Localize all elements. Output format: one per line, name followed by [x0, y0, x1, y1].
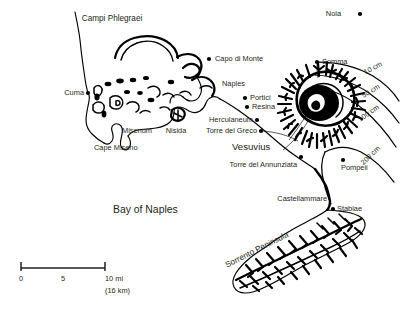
cone-blob-1 — [105, 82, 112, 86]
place-dot-cuma — [86, 91, 90, 95]
place-label-somma: Somma — [322, 57, 348, 66]
crater-ring-small-5 — [127, 102, 139, 112]
cone-blob-5 — [124, 90, 130, 94]
place-dot-somma — [315, 60, 319, 64]
island-nisida-ridge — [174, 110, 182, 120]
scale-bar-line — [21, 262, 105, 271]
isopach-labels-layer: 10 cm50 cm100 cm200 cm — [356, 59, 383, 166]
cone-blob-6 — [137, 91, 143, 95]
place-dot-torre-del-greco — [259, 129, 263, 133]
crater-ring-small-10 — [160, 107, 170, 110]
place-dot-herculaneum — [255, 118, 259, 122]
map-canvas: NolaSommaCapo di MonteNaplesCumaPorticiR… — [0, 0, 401, 311]
place-label-stabiae: Stabiae — [337, 204, 362, 213]
place-dot-resina — [245, 105, 249, 109]
isopach-label-100-cm: 100 cm — [356, 103, 380, 124]
region-label-campi-phlegraei: Campi Phlegraei — [82, 14, 143, 23]
place-dot-nola — [358, 12, 362, 16]
place-label-nola: Nola — [326, 9, 342, 18]
place-label-misenum: Misenum — [122, 126, 152, 135]
cone-blob-3 — [130, 78, 136, 82]
crater-ring-small-8 — [180, 91, 191, 95]
leader-torre-del-greco — [263, 131, 298, 141]
place-label-herculaneum: Herculaneum — [209, 115, 253, 124]
cone-blob-9 — [102, 110, 107, 117]
label-vesuvius: Vesuvius — [232, 141, 271, 152]
cone-blob-10 — [168, 80, 174, 84]
cone-blob-4 — [143, 76, 149, 80]
place-dot-portici — [243, 96, 247, 100]
label-bay-of-naples: Bay of Naples — [113, 204, 178, 215]
place-label-capo-di-monte: Capo di Monte — [215, 54, 263, 63]
coastline-northwest — [75, 12, 104, 143]
scale-tick-5: 5 — [61, 274, 65, 283]
place-label-portici: Portici — [250, 93, 271, 102]
scale-bar: 0 5 10 mi (16 km) — [19, 262, 130, 295]
place-label-torre-del-greco: Torre del Greco — [206, 126, 257, 135]
place-dot-pompeii — [341, 158, 345, 162]
bay-of-naples-map: NolaSommaCapo di MonteNaplesCumaPorticiR… — [0, 0, 401, 311]
place-label-torre-del-annunziata: Torre del Annunziata — [230, 160, 298, 169]
cone-blob-7 — [148, 98, 155, 102]
crater-ring-large-nw — [115, 36, 178, 58]
place-label-castellammare: Castellammare — [277, 194, 327, 203]
isopach-label-10-cm: 10 cm — [362, 59, 384, 76]
isopach-label-50-cm: 50 cm — [360, 82, 381, 100]
scale-tick-0: 0 — [19, 274, 23, 283]
crater-ring-east-d — [200, 86, 212, 88]
crater-ring-small-6 — [148, 86, 160, 97]
place-label-nisida: Nisida — [166, 126, 187, 135]
cone-blob-2 — [116, 79, 124, 84]
cone-blob-8 — [94, 94, 99, 101]
crater-ring-small-9 — [140, 111, 150, 113]
campi-phlegraei-craters — [93, 36, 214, 120]
place-dot-torre-del-annunziata — [299, 155, 303, 159]
crater-ring-large-nw-inner — [121, 41, 173, 61]
place-label-cuma: Cuma — [64, 88, 85, 97]
place-dot-stabiae — [331, 207, 335, 211]
scale-tick-10: 10 mi — [105, 274, 123, 283]
place-label-cape-miseno: Cape Miseno — [94, 143, 138, 152]
place-label-resina: Resina — [252, 102, 276, 111]
crater-ring-small-4 — [116, 101, 120, 106]
place-label-naples: Naples — [222, 79, 245, 88]
place-dot-capo-di-monte — [207, 57, 211, 61]
isopach-label-200-cm: 200 cm — [359, 144, 382, 167]
scale-metric: (16 km) — [105, 286, 130, 295]
coastline-naples-cove — [170, 95, 183, 103]
